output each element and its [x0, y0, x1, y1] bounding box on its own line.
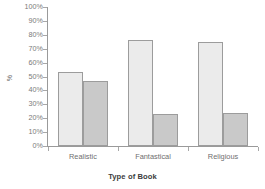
bar [153, 114, 178, 146]
x-axis-title: Type of Book [0, 172, 265, 181]
x-axis-tick-mark [258, 147, 259, 151]
y-axis-tick-label: 70% [14, 45, 43, 52]
bar [223, 113, 248, 146]
x-axis-category-label: Fantastical [135, 153, 171, 162]
y-axis-tick-label: 0% [14, 142, 43, 149]
y-axis-tick-label: 50% [14, 73, 43, 80]
bar [58, 72, 83, 146]
y-axis-tick-label: 80% [14, 31, 43, 38]
y-axis-tick-label: 10% [14, 128, 43, 135]
bar-chart: % 0%10%20%30%40%50%60%70%80%90%100% Type… [0, 0, 265, 189]
y-axis-tick-label: 40% [14, 87, 43, 94]
bar [83, 81, 108, 146]
y-axis-tick-labels: 0%10%20%30%40%50%60%70%80%90%100% [14, 0, 43, 189]
x-axis-tick-mark [48, 147, 49, 151]
x-axis-line [47, 146, 258, 147]
x-axis-tick-mark [188, 147, 189, 151]
bar [128, 40, 153, 146]
bar [198, 42, 223, 146]
x-axis-tick-mark [118, 147, 119, 151]
x-axis-category-label: Religious [208, 153, 238, 162]
y-axis-tick-label: 20% [14, 115, 43, 122]
y-axis-tick-label: 60% [14, 59, 43, 66]
x-axis-category-label: Realistic [69, 153, 97, 162]
y-axis-tick-label: 30% [14, 101, 43, 108]
y-axis-tick-label: 100% [14, 3, 43, 10]
y-axis-tick-label: 90% [14, 17, 43, 24]
plot-area [48, 7, 258, 146]
